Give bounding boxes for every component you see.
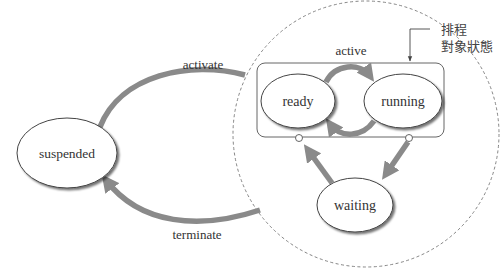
terminate-arrow <box>106 180 260 221</box>
terminate-label: terminate <box>172 227 221 242</box>
waiting-to-ready-arrow <box>308 150 332 183</box>
state-suspended[interactable]: suspended <box>17 118 117 188</box>
state-running[interactable]: running <box>364 74 442 128</box>
annotation-leader-line <box>410 29 430 61</box>
state-suspended-label: suspended <box>39 146 95 161</box>
annotation-line-1: 排程 <box>441 22 467 37</box>
group-active-label: active <box>335 43 366 58</box>
annotation-line-2: 對象狀態 <box>441 39 493 54</box>
state-ready-label: ready <box>282 94 313 109</box>
state-diagram: ready running waiting suspended active a… <box>0 0 503 268</box>
ready-exit-port <box>296 135 303 142</box>
activate-label: activate <box>183 57 224 72</box>
activate-arrow <box>100 69 245 127</box>
state-waiting-label: waiting <box>334 198 376 213</box>
running-exit-port <box>406 135 413 142</box>
state-running-label: running <box>381 94 425 109</box>
running-to-waiting-arrow <box>386 142 408 174</box>
state-ready[interactable]: ready <box>261 74 335 128</box>
state-waiting[interactable]: waiting <box>317 178 393 232</box>
